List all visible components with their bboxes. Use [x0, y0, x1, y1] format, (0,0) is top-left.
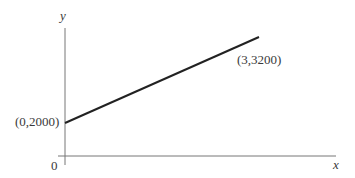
end-point-label: (3,3200) — [237, 52, 281, 68]
origin-label: 0 — [51, 158, 58, 174]
data-line — [65, 37, 259, 123]
start-point-label: (0,2000) — [15, 114, 59, 130]
chart-canvas — [0, 0, 355, 178]
x-axis-label: x — [333, 157, 339, 173]
y-axis-label: y — [60, 8, 66, 24]
